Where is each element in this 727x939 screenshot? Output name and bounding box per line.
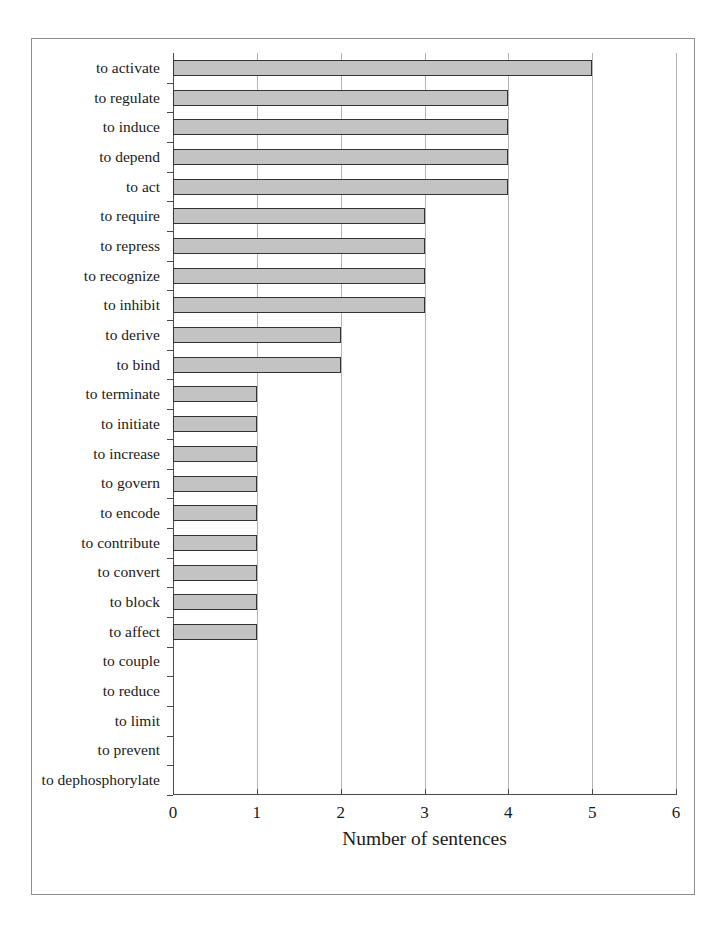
x-axis-title: Number of sentences <box>173 829 676 849</box>
bar-row: to block <box>173 587 676 617</box>
bar <box>173 594 257 610</box>
y-tick <box>167 795 173 796</box>
category-label: to bind <box>117 357 161 373</box>
x-tick-0 <box>173 789 174 795</box>
category-label: to activate <box>96 60 160 76</box>
category-label: to act <box>126 179 160 195</box>
x-tick-label-2: 2 <box>336 804 345 821</box>
x-tick-5 <box>592 789 593 795</box>
bar-row: to act <box>173 172 676 202</box>
bar <box>173 208 425 224</box>
category-label: to inhibit <box>104 298 160 314</box>
category-label: to prevent <box>98 743 160 759</box>
category-label: to affect <box>109 624 160 640</box>
category-label: to increase <box>93 446 160 462</box>
x-tick-3 <box>425 789 426 795</box>
category-label: to repress <box>100 238 160 254</box>
x-tick-label-0: 0 <box>169 804 178 821</box>
bar <box>173 386 257 402</box>
category-label: to derive <box>105 327 160 343</box>
category-label: to require <box>100 208 160 224</box>
category-label: to induce <box>103 119 160 135</box>
x-tick-4 <box>508 789 509 795</box>
x-tick-1 <box>257 789 258 795</box>
gridline-x-6 <box>676 53 677 795</box>
bar <box>173 565 257 581</box>
category-label: to recognize <box>84 268 160 284</box>
bar <box>173 357 341 373</box>
bar-row: to require <box>173 201 676 231</box>
bar-row: to prevent <box>173 736 676 766</box>
bar <box>173 149 508 165</box>
x-tick-2 <box>341 789 342 795</box>
bar <box>173 238 425 254</box>
category-label: to convert <box>98 565 160 581</box>
bar <box>173 327 341 343</box>
bar-row: to increase <box>173 439 676 469</box>
x-tick-label-4: 4 <box>504 804 513 821</box>
bar-row: to induce <box>173 112 676 142</box>
category-label: to couple <box>103 654 160 670</box>
category-label: to terminate <box>86 387 160 403</box>
bar-row: to couple <box>173 647 676 677</box>
bar-row: to derive <box>173 320 676 350</box>
bar-row: to bind <box>173 350 676 380</box>
bar <box>173 535 257 551</box>
x-tick-label-6: 6 <box>672 804 681 821</box>
x-tick-label-3: 3 <box>420 804 429 821</box>
category-label: to regulate <box>94 90 160 106</box>
category-label: to govern <box>101 476 160 492</box>
bar-row: to recognize <box>173 261 676 291</box>
category-label: to dephosphorylate <box>42 772 160 788</box>
category-label: to encode <box>100 505 160 521</box>
plot-area: to activateto regulateto induceto depend… <box>173 53 676 795</box>
bar-row: to convert <box>173 558 676 588</box>
bar-row: to limit <box>173 706 676 736</box>
bar-row: to initiate <box>173 409 676 439</box>
bar-row: to encode <box>173 498 676 528</box>
bar <box>173 119 508 135</box>
bar-row: to depend <box>173 142 676 172</box>
bar-row: to affect <box>173 617 676 647</box>
bar-row: to repress <box>173 231 676 261</box>
bar <box>173 446 257 462</box>
bar-row: to reduce <box>173 676 676 706</box>
category-label: to reduce <box>103 683 160 699</box>
category-label: to initiate <box>101 416 160 432</box>
bar-row: to contribute <box>173 528 676 558</box>
bar <box>173 268 425 284</box>
category-label: to contribute <box>81 535 160 551</box>
category-label: to depend <box>99 149 160 165</box>
bar-row: to govern <box>173 469 676 499</box>
x-tick-6 <box>676 789 677 795</box>
bar <box>173 90 508 106</box>
bar <box>173 505 257 521</box>
bar-row: to activate <box>173 53 676 83</box>
chart-figure: to activateto regulateto induceto depend… <box>31 38 695 895</box>
bar-row: to terminate <box>173 379 676 409</box>
bar-row: to regulate <box>173 83 676 113</box>
category-label: to limit <box>115 713 160 729</box>
bar <box>173 624 257 640</box>
bar <box>173 476 257 492</box>
bar-row: to inhibit <box>173 290 676 320</box>
x-tick-label-1: 1 <box>253 804 262 821</box>
x-tick-label-5: 5 <box>588 804 597 821</box>
bar <box>173 60 592 76</box>
bar <box>173 297 425 313</box>
category-label: to block <box>110 594 160 610</box>
bar <box>173 179 508 195</box>
bar <box>173 416 257 432</box>
